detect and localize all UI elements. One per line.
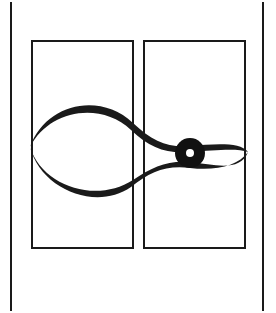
figure-background xyxy=(0,0,276,313)
figure-root: Eye and Infinity Emblem Two tall outline… xyxy=(0,0,276,313)
pupil-highlight xyxy=(186,149,194,157)
emblem-svg: Eye and Infinity Emblem Two tall outline… xyxy=(0,0,276,313)
pupil xyxy=(175,138,205,168)
